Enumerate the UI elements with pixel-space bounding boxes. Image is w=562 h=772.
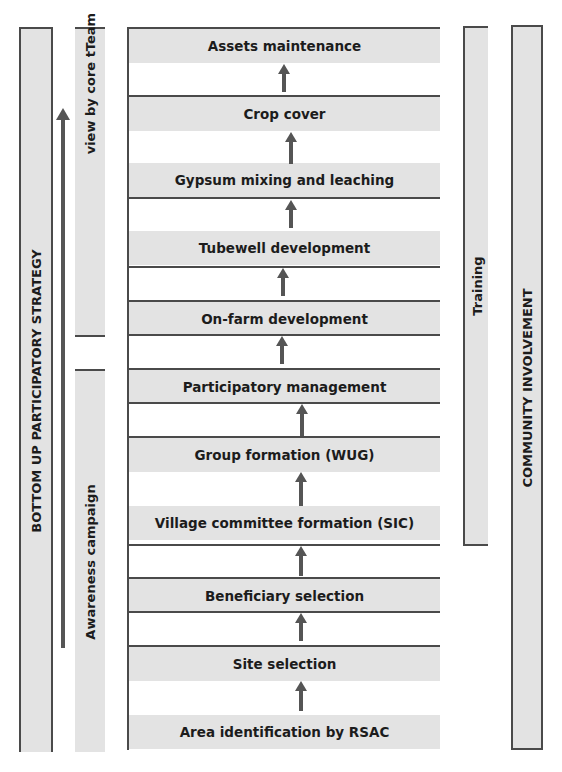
up-arrow-icon (285, 200, 297, 228)
review-band: Review by core tTeam (75, 27, 105, 157)
bottom-up-strategy-label: BOTTOM UP PARTICIPATORY STRATEGY (29, 249, 44, 532)
divider (129, 611, 440, 613)
divider (129, 402, 440, 404)
step-village-committee: Village committee formation (SIC) (129, 506, 440, 540)
step-beneficiary-selection: Beneficiary selection (129, 579, 440, 613)
up-arrow-icon (296, 404, 308, 436)
review-label: Review by core tTeam (83, 13, 98, 173)
community-involvement-band: COMMUNITY INVOLVEMENT (511, 25, 543, 750)
step-site-selection: Site selection (129, 647, 440, 681)
divider (129, 544, 440, 546)
step-on-farm-development: On-farm development (129, 302, 440, 336)
step-gypsum-mixing: Gypsum mixing and leaching (129, 163, 440, 197)
step-area-identification: Area identification by RSAC (129, 715, 440, 749)
up-arrow-icon (295, 546, 307, 576)
step-group-formation: Group formation (WUG) (129, 438, 440, 472)
bottom-up-strategy-band: BOTTOM UP PARTICIPATORY STRATEGY (19, 27, 53, 752)
step-assets-maintenance: Assets maintenance (129, 29, 440, 63)
up-arrow-icon (277, 268, 289, 296)
long-up-arrow-icon (56, 108, 70, 648)
step-crop-cover: Crop cover (129, 97, 440, 131)
training-label: Training (469, 256, 484, 315)
divider (129, 197, 440, 199)
training-band: Training (463, 26, 488, 546)
up-arrow-icon (285, 132, 297, 164)
up-arrow-icon (295, 681, 307, 711)
up-arrow-icon (295, 472, 307, 506)
review-band-end (75, 155, 105, 337)
up-arrow-icon (278, 64, 290, 92)
step-tubewell-development: Tubewell development (129, 231, 440, 265)
up-arrow-icon (276, 336, 288, 364)
up-arrow-icon (295, 613, 307, 641)
community-involvement-label: COMMUNITY INVOLVEMENT (520, 288, 535, 487)
awareness-label: Awareness campaign (83, 484, 98, 639)
step-participatory-management: Participatory management (129, 370, 440, 404)
awareness-band: Awareness campaign (75, 369, 105, 752)
